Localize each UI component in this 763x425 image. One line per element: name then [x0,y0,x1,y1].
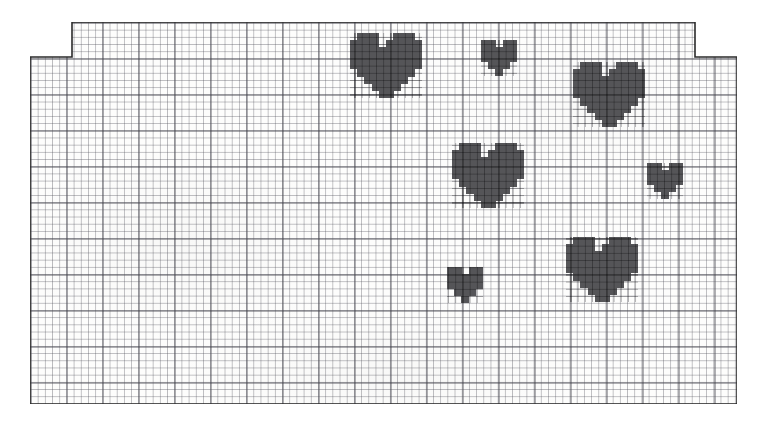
graph-paper-scene [0,0,763,425]
graph-paper-sheet [30,22,737,404]
graph-paper-grid [30,22,737,404]
